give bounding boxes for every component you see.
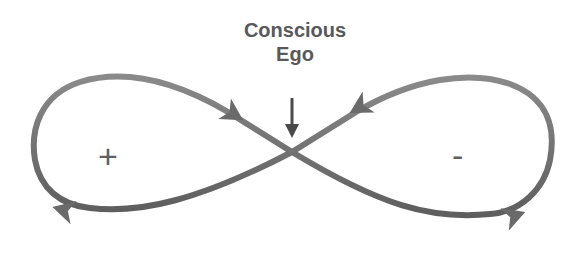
plus-sign: + [98,137,118,176]
left-loop [34,77,292,210]
minus-sign: - [452,136,463,175]
right-loop [292,77,552,215]
infinity-loop-diagram [0,0,585,259]
down-arrow-icon [285,98,299,138]
